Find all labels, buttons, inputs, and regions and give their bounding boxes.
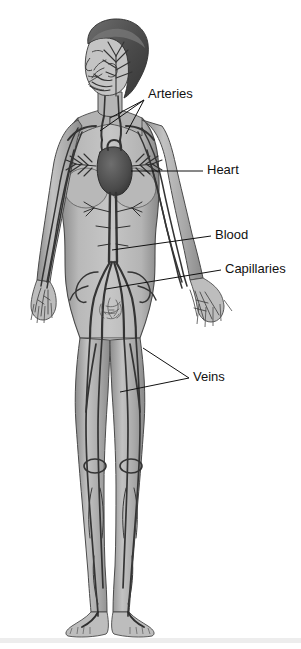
- circulatory-system-figure: Arteries Heart Blood Capillaries Veins: [0, 0, 301, 649]
- label-heart: Heart: [207, 162, 239, 177]
- label-capillaries: Capillaries: [225, 261, 286, 276]
- hand-left: [31, 280, 56, 320]
- footer-band: [0, 638, 301, 643]
- label-blood: Blood: [215, 227, 248, 242]
- heart-organ: [97, 147, 132, 196]
- label-arteries: Arteries: [148, 86, 193, 101]
- label-veins: Veins: [193, 369, 225, 384]
- anatomy-illustration: Arteries Heart Blood Capillaries Veins: [0, 0, 301, 649]
